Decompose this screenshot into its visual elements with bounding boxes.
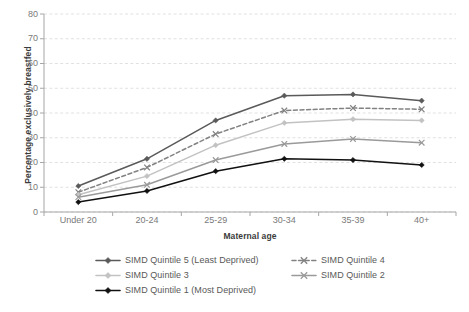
cropped-title-remnant — [30, 0, 440, 5]
y-axis-tick-labels: 01020304050607080 — [16, 14, 38, 212]
data-point-5-4 — [350, 157, 355, 162]
diamond-marker — [76, 200, 81, 205]
data-point-3-1 — [144, 174, 149, 179]
diamond-marker — [419, 98, 424, 103]
x-tick-label-0: Under 20 — [60, 215, 97, 226]
data-point-2-1 — [144, 165, 150, 171]
x-marker — [144, 165, 150, 171]
breastfeeding-by-maternal-age-chart: Percentage exclusively breastfed 0102030… — [0, 0, 469, 312]
legend-item-5[interactable]: SIMD Quintile 1 (Most Deprived) — [95, 284, 256, 297]
x-tick-label-1: 20-24 — [135, 215, 158, 226]
data-point-1-4 — [350, 92, 355, 97]
legend-diamond — [105, 273, 111, 279]
legend-item-label: SIMD Quintile 5 (Least Deprived) — [125, 255, 259, 266]
data-point-1-5 — [419, 98, 424, 103]
data-point-3-2 — [213, 143, 218, 148]
y-tick-label-30: 30 — [16, 133, 38, 142]
y-tick-label-10: 10 — [16, 183, 38, 192]
y-tick-label-60: 60 — [16, 59, 38, 68]
x-tick-label-3: 30-34 — [273, 215, 296, 226]
legend-item-label: SIMD Quintile 1 (Most Deprived) — [125, 285, 256, 296]
legend-item-1[interactable]: SIMD Quintile 5 (Least Deprived) — [95, 254, 259, 267]
plot-area — [44, 14, 456, 212]
diamond-marker — [282, 93, 287, 98]
legend-item-label: SIMD Quintile 4 — [321, 255, 385, 266]
y-tick-label-70: 70 — [16, 34, 38, 43]
x-line-marker — [291, 255, 317, 266]
x-tick-label-5: 40+ — [414, 215, 429, 226]
legend-item-label: SIMD Quintile 3 — [125, 270, 189, 281]
x-line-marker — [291, 270, 317, 281]
data-point-3-5 — [419, 118, 424, 123]
legend-item-4[interactable]: SIMD Quintile 2 — [291, 269, 385, 282]
data-point-5-0 — [76, 200, 81, 205]
diamond-marker — [76, 183, 81, 188]
diamond-marker — [419, 118, 424, 123]
y-tick-label-20: 20 — [16, 158, 38, 167]
diamond-marker — [144, 188, 149, 193]
x-tick-label-4: 35-39 — [341, 215, 364, 226]
data-point-1-0 — [76, 183, 81, 188]
data-point-1-3 — [282, 93, 287, 98]
diamond-marker — [282, 156, 287, 161]
series-line-2 — [78, 108, 421, 192]
diamond-marker — [419, 162, 424, 167]
diamond-line-marker — [95, 285, 121, 296]
diamond-marker — [350, 117, 355, 122]
y-tick-label-50: 50 — [16, 84, 38, 93]
data-point-3-3 — [282, 120, 287, 125]
data-point-5-3 — [282, 156, 287, 161]
diamond-marker — [213, 143, 218, 148]
data-point-2-2 — [213, 131, 219, 137]
diamond-marker — [213, 169, 218, 174]
plot-svg — [44, 14, 456, 212]
diamond-marker — [282, 120, 287, 125]
y-tick-label-80: 80 — [16, 10, 38, 19]
x-axis-title: Maternal age — [44, 231, 456, 241]
legend-item-3[interactable]: SIMD Quintile 3 — [95, 269, 189, 282]
y-tick-label-40: 40 — [16, 109, 38, 118]
series-line-3 — [78, 119, 421, 194]
diamond-line-marker — [95, 255, 121, 266]
legend-item-label: SIMD Quintile 2 — [321, 270, 385, 281]
legend-item-2[interactable]: SIMD Quintile 4 — [291, 254, 385, 267]
legend: SIMD Quintile 5 (Least Deprived)SIMD Qui… — [95, 254, 405, 304]
x-axis-tick-labels: Under 2020-2425-2930-3435-3940+ — [44, 215, 456, 229]
legend-diamond — [105, 258, 111, 264]
data-point-5-5 — [419, 162, 424, 167]
data-point-3-4 — [350, 117, 355, 122]
diamond-marker — [350, 157, 355, 162]
x-marker — [213, 131, 219, 137]
data-point-5-2 — [213, 169, 218, 174]
diamond-marker — [350, 92, 355, 97]
x-tick-label-2: 25-29 — [204, 215, 227, 226]
diamond-marker — [144, 174, 149, 179]
y-tick-label-0: 0 — [16, 208, 38, 217]
data-point-5-1 — [144, 188, 149, 193]
legend-diamond — [105, 288, 111, 294]
diamond-line-marker — [95, 270, 121, 281]
series-line-4 — [78, 139, 421, 197]
